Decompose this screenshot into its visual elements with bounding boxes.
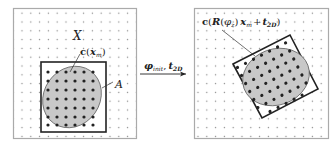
arrow-label: φinit,t2D	[144, 60, 183, 72]
grid-x-label: X	[72, 29, 82, 43]
diagram-canvas: X A c(xm) φinit,t2D	[0, 0, 336, 147]
right-panel: c(R(φz)xm+t2D)	[195, 9, 329, 139]
region-a-label: A	[114, 78, 123, 91]
sample-c-label: c(xm)	[80, 46, 106, 58]
svg-text:c(xm): c(xm)	[80, 46, 106, 58]
phi-sub-text: init	[153, 65, 164, 72]
sep-text: ,	[163, 60, 166, 71]
t-sub-text: 2D	[172, 65, 183, 72]
phi-text: φ	[144, 60, 153, 71]
m-sub-text: m	[246, 21, 252, 28]
left-panel: X A c(xm)	[14, 9, 137, 140]
transform-arrow: φinit,t2D	[140, 60, 186, 77]
plus-text: +	[253, 16, 261, 27]
phi-text: φ	[224, 16, 231, 27]
r-matrix-text: R	[211, 16, 220, 27]
